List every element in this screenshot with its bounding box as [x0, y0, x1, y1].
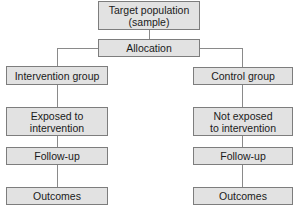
connector-right-down-to-group — [242, 48, 243, 67]
right-outcomes-box: Outcomes — [193, 187, 293, 205]
connector-right-exposure-to-followup — [242, 136, 243, 147]
connector-left-followup-to-outcomes — [57, 165, 58, 187]
control-group-box: Control group — [193, 67, 293, 85]
connector-allocation-right — [200, 48, 243, 49]
right-follow-up-box: Follow-up — [193, 147, 293, 165]
not-exposed-to-intervention-box: Not exposed to intervention — [193, 107, 293, 136]
target-population-box: Target population (sample) — [98, 1, 200, 30]
connector-allocation-left — [57, 48, 98, 49]
left-outcomes-box: Outcomes — [6, 187, 108, 205]
connector-right-group-to-exposure — [242, 85, 243, 107]
exposed-to-intervention-box: Exposed to intervention — [6, 107, 108, 136]
connector-left-down-to-group — [57, 48, 58, 66]
connector-left-group-to-exposure — [57, 85, 58, 107]
allocation-box: Allocation — [98, 39, 200, 57]
connector-root-to-allocation — [149, 30, 150, 39]
connector-right-followup-to-outcomes — [242, 165, 243, 187]
left-follow-up-box: Follow-up — [6, 147, 108, 165]
connector-left-exposure-to-followup — [57, 136, 58, 147]
intervention-group-box: Intervention group — [6, 66, 108, 85]
